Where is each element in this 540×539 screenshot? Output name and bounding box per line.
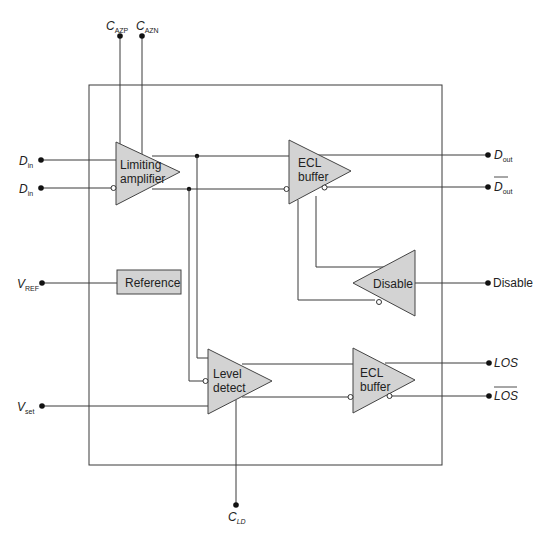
c-azp-pin-dot bbox=[117, 33, 123, 39]
los-label: LOS bbox=[494, 356, 518, 370]
inverting-input-bubble bbox=[348, 395, 353, 400]
level-detect-block: Level detect bbox=[203, 349, 272, 414]
ecl-buffer-los-label-1: ECL bbox=[360, 366, 384, 380]
d-out-label: Dout bbox=[494, 148, 512, 163]
d-out-pin-dot bbox=[485, 152, 491, 158]
inverting-input-bubble bbox=[377, 300, 382, 305]
level-detect-label-1: Level bbox=[213, 367, 242, 381]
d-in-pos-pin-dot bbox=[38, 157, 44, 163]
los-bar-label: LOS bbox=[494, 389, 518, 403]
d-in-neg-label: Din bbox=[19, 182, 33, 197]
disable-pin-label: Disable bbox=[493, 276, 533, 290]
level-detect-label-2: detect bbox=[213, 381, 246, 395]
v-set-label: Vset bbox=[17, 400, 34, 415]
c-azn-label: CAZN bbox=[136, 19, 159, 34]
d-out-bar-label: Dout bbox=[494, 180, 512, 195]
reference-block: Reference bbox=[117, 270, 181, 294]
c-azp-label: CAZP bbox=[106, 19, 129, 34]
d-out-bar-pin-dot bbox=[485, 184, 491, 190]
d-in-neg-pin-dot bbox=[38, 185, 44, 191]
inverting-output-bubble bbox=[387, 394, 392, 399]
ecl-buffer-data-label-2: buffer bbox=[298, 170, 328, 184]
level-detect-pos-wire bbox=[197, 156, 208, 358]
reference-label: Reference bbox=[125, 276, 181, 290]
limiting-amplifier-label-1: Limiting bbox=[120, 158, 161, 172]
inverting-input-bubble bbox=[203, 379, 208, 384]
inverting-input-bubble bbox=[111, 186, 116, 191]
los-pin-dot bbox=[486, 360, 492, 366]
ecl-buffer-los-label-2: buffer bbox=[360, 380, 390, 394]
disable-pin-dot bbox=[485, 280, 491, 286]
c-ld-label: CLD bbox=[228, 510, 246, 525]
ecl-buffer-data-label-1: ECL bbox=[298, 156, 322, 170]
block-diagram: Limiting amplifier ECL buffer Disable Re… bbox=[0, 0, 540, 539]
v-set-pin-dot bbox=[39, 403, 45, 409]
d-in-pos-label: Din bbox=[19, 154, 33, 169]
v-ref-label: VREF bbox=[17, 277, 39, 292]
limiting-amplifier-block: Limiting amplifier bbox=[111, 142, 180, 205]
disable-block-label: Disable bbox=[373, 277, 413, 291]
inverting-output-bubble bbox=[322, 185, 327, 190]
ecl-buffer-los-block: ECL buffer bbox=[348, 348, 415, 413]
los-bar-pin-dot bbox=[486, 393, 492, 399]
disable-block: Disable bbox=[353, 250, 415, 316]
c-ld-pin-dot bbox=[233, 502, 239, 508]
limiting-amplifier-label-2: amplifier bbox=[120, 172, 165, 186]
disable-wire-a bbox=[316, 196, 385, 267]
ecl-buffer-data-block: ECL buffer bbox=[284, 140, 351, 204]
v-ref-pin-dot bbox=[39, 280, 45, 286]
inverting-input-bubble bbox=[284, 187, 289, 192]
c-azn-pin-dot bbox=[139, 33, 145, 39]
